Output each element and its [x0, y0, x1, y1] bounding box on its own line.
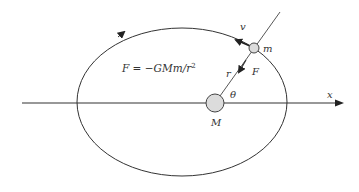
- velocity-arrow-icon: [236, 40, 250, 46]
- force-law-label: F = −GMm/r2: [121, 62, 196, 74]
- force-arrow-icon: [239, 60, 246, 72]
- x-axis-label: x: [327, 89, 333, 100]
- angle-label: θ: [230, 89, 236, 100]
- large-mass-M: [206, 94, 224, 112]
- small-mass-label: m: [263, 43, 272, 54]
- radius-label: r: [226, 68, 232, 79]
- orbit-diagram: F = −GMm/r2 v m F r θ M x: [0, 0, 359, 192]
- small-mass-m: [249, 43, 259, 53]
- orbit-direction-arrow-icon: [118, 32, 124, 37]
- large-mass-label: M: [210, 117, 222, 128]
- velocity-label: v: [240, 21, 246, 32]
- x-axis-arrow-icon: [335, 100, 344, 107]
- radius-line: [215, 12, 280, 103]
- force-label: F: [251, 66, 260, 77]
